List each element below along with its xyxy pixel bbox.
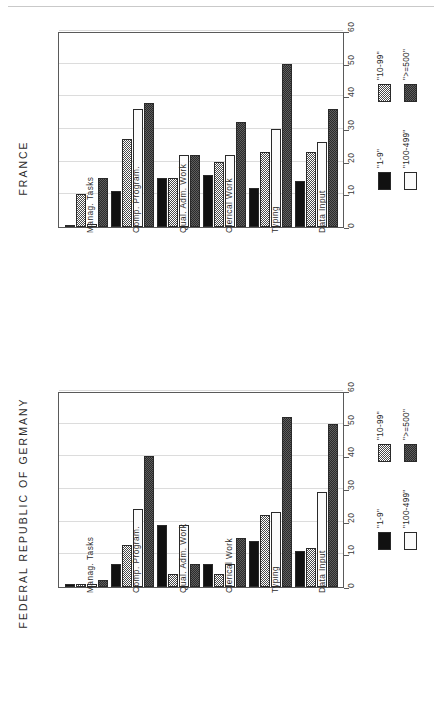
bar-comp-program-series-0 [111,191,121,227]
bar-comp-program-series-3 [144,103,154,227]
x-axis-label-text: Manag. Tasks [85,177,95,233]
y-axis-tick-label: 50 [346,54,356,64]
legend-swatch-light-checkered [378,84,391,102]
bar-manag-tasks-series-0 [65,225,75,227]
bar-clerical-work-series-3 [236,122,246,227]
chart-germany-title-text: FEDERAL REPUBLIC OF GERMANY [17,398,29,629]
y-axis-tick-label: 60 [346,382,356,392]
x-axis-label-text: Clerical Work [224,178,234,233]
x-axis-label-text: Typing [270,206,280,233]
bar-data-input-series-0 [295,181,305,227]
bar-qual-adm-work-series-0 [157,178,167,227]
bar-typing-series-3 [282,64,292,227]
y-axis-tickmark [344,195,349,196]
chart-france-title-text: FRANCE [17,140,29,195]
figure-page: 164THE DEMAND FOR 'ELECTRONIC OFFICE' WO… [0,0,442,704]
y-axis-tickmark [344,555,349,556]
legend-label: ">=500" [402,409,411,440]
x-axis-label: Typing [247,590,293,664]
bar-group-container-germany [59,393,343,587]
y-axis-tick-label: 40 [346,87,356,97]
x-axis-label: Comp. Program. [108,590,154,664]
y-axis-tick-label: 20 [346,152,356,162]
running-header: 164THE DEMAND FOR 'ELECTRONIC OFFICE' WO… [0,0,442,5]
y-axis-tickmark [344,97,349,98]
legend-swatch-white [404,172,417,190]
x-axis-label: Manag. Tasks [62,590,108,664]
legend-swatch-solid-black [378,532,391,550]
x-axis-labels-germany: Manag. TasksComp. Program.Qual. Adm. Wor… [58,590,344,664]
x-axis-labels-france: Manag. TasksComp. Program.Qual. Adm. Wor… [58,230,344,304]
y-axis-tickmark [344,392,349,393]
y-axis-tick-label: 0 [346,223,356,228]
bar-clerical-work-series-0 [203,175,213,227]
legend-swatch-dark-checkered [404,84,417,102]
bar-manag-tasks-series-1 [76,584,86,587]
x-axis-label-text: Qual. Adm. Work [178,524,188,593]
bar-clerical-work-series-0 [203,564,213,587]
legend-label: "100-499" [402,489,411,528]
y-axis-tick-label: 20 [346,512,356,522]
running-title: THE DEMAND FOR 'ELECTRONIC OFFICE' WORKE… [106,0,359,2]
bar-qual-adm-work-series-1 [168,178,178,227]
bar-typing-series-3 [282,417,292,587]
x-axis-label-text: Comp. Program. [131,166,141,233]
y-axis-tickmark [344,228,349,229]
x-axis-label: Clerical Work [201,590,247,664]
x-axis-label: Comp. Program. [108,230,154,304]
legend-swatch-white [404,532,417,550]
bar-group-container-france [59,33,343,227]
y-axis-tickmark [344,490,349,491]
bar-group [293,393,339,587]
chart-france: FRANCE 0102030405060 Manag. TasksComp. P… [0,18,442,318]
y-axis-tickmark [344,457,349,458]
legend-label: ">=500" [402,49,411,80]
chart-germany-title: FEDERAL REPUBLIC OF GERMANY [0,348,46,678]
bar-qual-adm-work-series-0 [157,525,167,587]
x-axis-label: Typing [247,230,293,304]
y-axis-tick-label: 60 [346,22,356,32]
bar-typing-series-0 [249,188,259,227]
chart-germany: FEDERAL REPUBLIC OF GERMANY 010203040506… [0,348,442,678]
legend-swatch-dark-checkered [404,444,417,462]
y-axis-tick-label: 30 [346,480,356,490]
legend-swatch-solid-black [378,172,391,190]
bar-data-input-series-1 [306,152,316,227]
y-axis-tickmark [344,32,349,33]
x-axis-label: Manag. Tasks [62,230,108,304]
bar-comp-program-series-0 [111,564,121,587]
bar-manag-tasks-series-3 [98,178,108,227]
bar-group [247,393,293,587]
y-axis-tick-label: 10 [346,545,356,555]
plot-area-france [58,32,344,228]
x-axis-label: Qual. Adm. Work [155,230,201,304]
bar-manag-tasks-series-1 [76,194,86,227]
plot-area-germany [58,392,344,588]
bar-manag-tasks-series-3 [98,580,108,587]
y-axis-tick-label: 30 [346,120,356,130]
x-axis-label-text: Comp. Program. [131,526,141,593]
y-axis-tick-label: 50 [346,414,356,424]
bar-qual-adm-work-series-3 [190,155,200,227]
chart-france-title: FRANCE [0,18,46,318]
x-axis-label-text: Typing [270,566,280,593]
bar-data-input-series-1 [306,548,316,587]
bar-group [293,33,339,227]
y-axis-tickmark [344,588,349,589]
bar-typing-series-0 [249,541,259,587]
gridline [59,30,343,31]
y-axis-tick-label: 10 [346,185,356,195]
bar-qual-adm-work-series-1 [168,574,178,587]
bar-clerical-work-series-1 [214,574,224,587]
x-axis-label: Qual. Adm. Work [155,590,201,664]
legend-label: "1-9" [376,149,385,168]
bar-typing-series-1 [260,152,270,227]
bar-manag-tasks-series-0 [65,584,75,587]
legend-label: "100-499" [402,129,411,168]
legend-france: "1-9""10-99""100-499"">=500" [378,32,442,222]
bar-clerical-work-series-3 [236,538,246,587]
bar-clerical-work-series-1 [214,162,224,227]
x-axis-label-text: Data Input [317,550,327,593]
gridline [59,390,343,391]
header-rule [8,6,434,7]
